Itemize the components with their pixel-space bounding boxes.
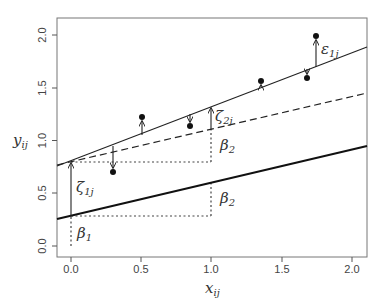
svg-text:0.5: 0.5: [36, 185, 48, 200]
svg-text:1.5: 1.5: [274, 263, 289, 275]
residual-arrows: [113, 40, 316, 168]
svg-text:2.0: 2.0: [344, 263, 359, 275]
svg-text:0.5: 0.5: [133, 263, 148, 275]
svg-text:1.0: 1.0: [36, 133, 48, 148]
svg-text:0.0: 0.0: [36, 238, 48, 253]
svg-text:0.0: 0.0: [63, 263, 78, 275]
svg-text:1.0: 1.0: [203, 263, 218, 275]
y-axis: [52, 35, 57, 246]
x-tick-labels: 0.0 0.5 1.0 1.5 2.0: [63, 263, 359, 275]
beta1-label: β1: [76, 224, 92, 243]
beta2-upper-label: β2: [219, 136, 235, 155]
zeta2-label: ζ2j: [215, 107, 233, 126]
x-axis: [71, 257, 352, 262]
y-axis-label: yij: [12, 131, 28, 150]
dashed-parallel-line: [57, 93, 367, 165]
zeta1-label: ζ1j: [76, 178, 94, 197]
data-points: [110, 33, 319, 175]
population-line: [57, 146, 367, 219]
cluster-line: [57, 47, 367, 166]
y-tick-labels: 0.0 0.5 1.0 1.5 2.0: [36, 27, 48, 253]
svg-text:2.0: 2.0: [36, 27, 48, 42]
epsilon1-label: ε1j: [321, 40, 339, 59]
beta2-lower-label: β2: [219, 189, 235, 208]
chart: 0.0 0.5 1.0 1.5 2.0 0.0 0.5 1.0 1.5 2.0 …: [0, 0, 375, 299]
svg-text:1.5: 1.5: [36, 80, 48, 95]
x-axis-label: xij: [205, 279, 220, 298]
